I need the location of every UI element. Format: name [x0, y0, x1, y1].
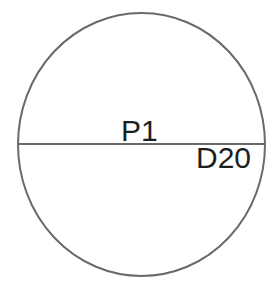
center-label: P1	[121, 114, 158, 147]
diameter-label: D20	[196, 141, 251, 174]
diagram-canvas: P1 D20	[0, 0, 280, 292]
